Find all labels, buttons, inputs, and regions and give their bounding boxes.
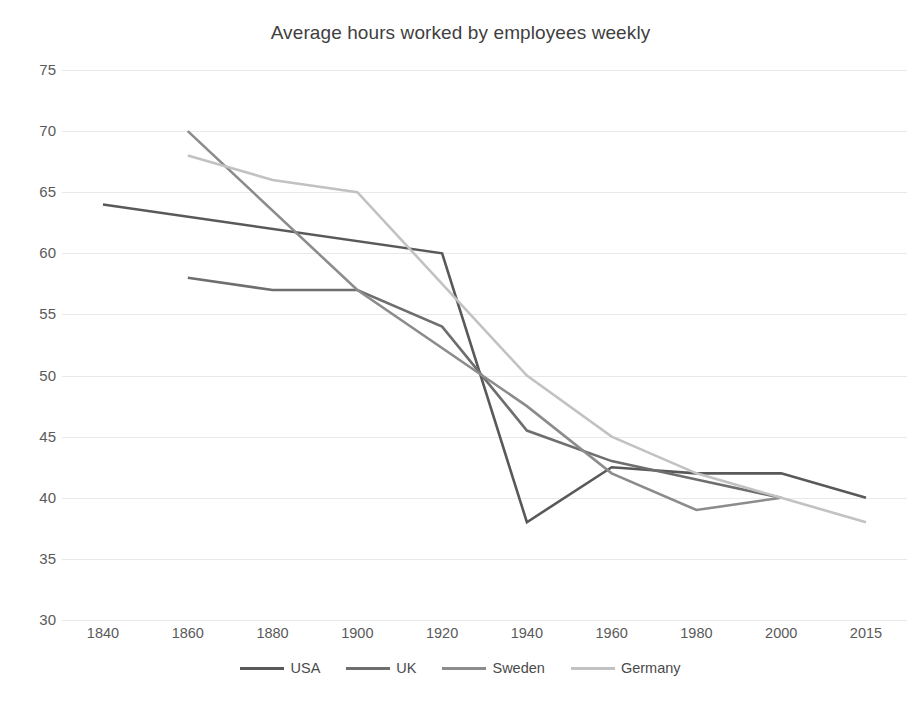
legend-label: USA <box>290 660 320 676</box>
y-axis: 75706560555045403530 <box>8 70 56 620</box>
legend-color-swatch-icon <box>442 667 486 670</box>
x-axis-tick-label: 1840 <box>87 625 119 641</box>
legend-item-sweden[interactable]: Sweden <box>442 660 544 676</box>
legend-label: Germany <box>621 660 681 676</box>
y-axis-tick-label: 50 <box>12 367 56 384</box>
x-axis-tick-label: 1880 <box>256 625 288 641</box>
line-chart: Average hours worked by employees weekly… <box>0 0 921 711</box>
y-axis-tick-label: 30 <box>12 611 56 628</box>
y-axis-tick-label: 75 <box>12 61 56 78</box>
y-axis-tick-label: 55 <box>12 305 56 322</box>
legend-item-usa[interactable]: USA <box>240 660 320 676</box>
y-axis-tick-label: 60 <box>12 244 56 261</box>
series-line-sweden <box>188 131 781 510</box>
legend-label: UK <box>396 660 416 676</box>
series-line-usa <box>103 204 866 522</box>
chart-legend: USAUKSwedenGermany <box>0 660 921 676</box>
chart-title: Average hours worked by employees weekly <box>0 22 921 44</box>
legend-color-swatch-icon <box>571 667 615 670</box>
legend-item-uk[interactable]: UK <box>346 660 416 676</box>
x-axis-tick-label: 1980 <box>680 625 712 641</box>
plot-area <box>62 70 907 620</box>
y-axis-tick-label: 35 <box>12 550 56 567</box>
legend-item-germany[interactable]: Germany <box>571 660 681 676</box>
y-axis-tick-label: 65 <box>12 183 56 200</box>
gridline <box>62 620 907 621</box>
series-line-germany <box>188 156 866 523</box>
x-axis-tick-label: 1940 <box>511 625 543 641</box>
y-axis-tick-label: 70 <box>12 122 56 139</box>
legend-color-swatch-icon <box>346 667 390 670</box>
series-lines <box>62 70 907 620</box>
x-axis-tick-label: 1920 <box>426 625 458 641</box>
x-axis-tick-label: 1900 <box>341 625 373 641</box>
legend-label: Sweden <box>492 660 544 676</box>
y-axis-tick-label: 40 <box>12 489 56 506</box>
x-axis: 1840186018801900192019401960198020002015 <box>62 625 907 651</box>
x-axis-tick-label: 1860 <box>172 625 204 641</box>
x-axis-tick-label: 2015 <box>850 625 882 641</box>
legend-color-swatch-icon <box>240 667 284 670</box>
x-axis-tick-label: 2000 <box>765 625 797 641</box>
y-axis-tick-label: 45 <box>12 428 56 445</box>
x-axis-tick-label: 1960 <box>596 625 628 641</box>
